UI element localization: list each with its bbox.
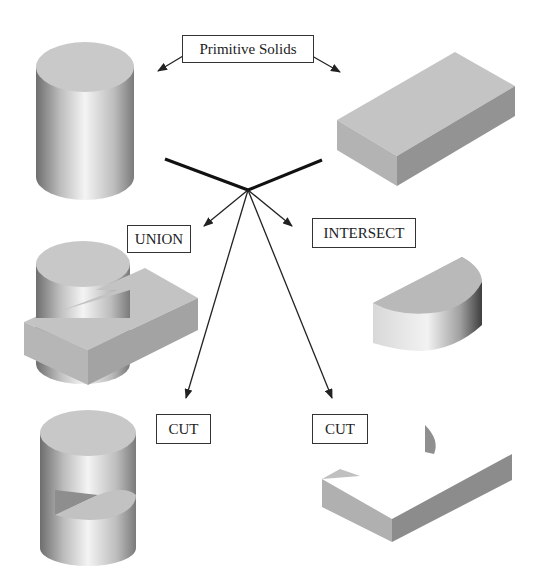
primitive-block <box>337 52 515 186</box>
diagram-canvas <box>0 0 543 582</box>
primitive-solids-label: Primitive Solids <box>182 35 314 63</box>
cut-left-label: CUT <box>156 414 211 444</box>
union-label: UNION <box>127 225 191 253</box>
union-solid <box>24 241 198 385</box>
primitive-cylinder <box>36 42 134 200</box>
intersect-label: INTERSECT <box>312 218 416 248</box>
intersect-solid <box>373 257 482 351</box>
cut-cylinder <box>40 410 136 566</box>
cut-right-label: CUT <box>312 414 368 444</box>
